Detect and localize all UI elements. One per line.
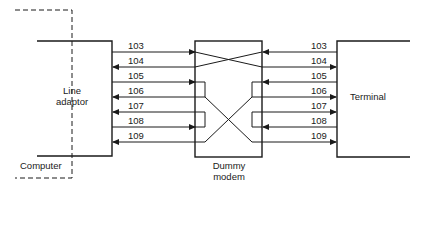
line-adaptor-label: Line adaptor bbox=[52, 85, 92, 107]
right-label-103: 103 bbox=[311, 41, 327, 51]
dummy-modem-box bbox=[195, 41, 262, 157]
dummy-modem-label-line1: Dummy bbox=[205, 160, 253, 171]
dummy-modem-label-line2: modem bbox=[205, 171, 253, 182]
computer-label: Computer bbox=[20, 160, 62, 171]
line-adaptor-label-line1: Line bbox=[52, 85, 92, 96]
left-label-109: 109 bbox=[128, 131, 144, 141]
loop-left-108-107 bbox=[195, 112, 205, 127]
right-label-109: 109 bbox=[311, 131, 327, 141]
left-label-106: 106 bbox=[128, 86, 144, 96]
left-label-103: 103 bbox=[128, 41, 144, 51]
right-label-107: 107 bbox=[311, 101, 327, 111]
cross-109-106 bbox=[195, 97, 252, 142]
left-label-108: 108 bbox=[128, 116, 144, 126]
loop-left-105-106 bbox=[195, 82, 205, 97]
loop-right-105-106 bbox=[252, 82, 262, 97]
line-adaptor-label-line2: adaptor bbox=[52, 96, 92, 107]
right-label-104: 104 bbox=[311, 56, 327, 66]
dummy-modem-label: Dummy modem bbox=[205, 160, 253, 182]
right-label-108: 108 bbox=[311, 116, 327, 126]
left-label-105: 105 bbox=[128, 71, 144, 81]
right-label-105: 105 bbox=[311, 71, 327, 81]
loop-right-108-107 bbox=[252, 112, 262, 127]
right-label-106: 106 bbox=[311, 86, 327, 96]
left-label-104: 104 bbox=[128, 56, 144, 66]
cross-106-109 bbox=[205, 97, 262, 142]
left-label-107: 107 bbox=[128, 101, 144, 111]
terminal-label: Terminal bbox=[350, 91, 386, 102]
